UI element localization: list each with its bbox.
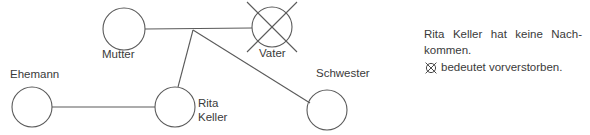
node-label-mutter: Mutter [102, 48, 135, 61]
node-ehemann[interactable] [12, 87, 52, 127]
edge-junction-rita [178, 30, 193, 87]
node-label-rita-keller-line2: Keller [198, 111, 227, 124]
genogram-page: Mutter Vater Ehemann Rita Keller Schwest… [0, 0, 590, 135]
edge-junction-schwester [193, 30, 310, 103]
edge-mutter-vater [145, 28, 252, 29]
legend-note-line1: Rita Keller hat keine Nach- [424, 27, 582, 43]
node-label-schwester: Schwester [316, 67, 370, 80]
node-label-ehemann: Ehemann [10, 68, 59, 81]
node-label-vater: Vater [259, 47, 286, 60]
crossed-circle-icon [424, 61, 438, 75]
node-rita-keller[interactable] [155, 87, 195, 127]
legend-note-line2: kommen. [424, 43, 582, 59]
legend-block: Rita Keller hat keine Nach- kommen. bede… [424, 27, 582, 76]
legend-symbol-text: bedeutet vorverstorben. [441, 60, 562, 76]
node-label-rita-keller-line1: Rita [198, 97, 218, 110]
node-schwester[interactable] [307, 90, 347, 130]
legend-symbol-row: bedeutet vorverstorben. [424, 60, 582, 76]
legend-note: Rita Keller hat keine Nach- kommen. [424, 27, 582, 58]
node-mutter[interactable] [103, 8, 145, 50]
